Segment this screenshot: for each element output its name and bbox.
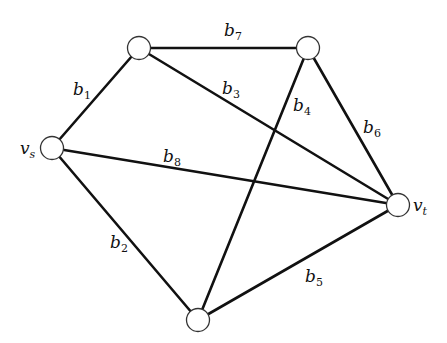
label-b5: b5 — [305, 266, 323, 289]
edge-b6 — [308, 48, 398, 205]
label-b4: b4 — [293, 95, 311, 118]
graph-diagram: vs vt b1 b2 b3 b4 b5 b6 b7 b8 — [0, 0, 447, 343]
label-b6: b6 — [363, 117, 381, 140]
node-vs — [41, 137, 64, 160]
label-b1: b1 — [73, 79, 91, 102]
edge-b2 — [52, 148, 198, 320]
edge-b5 — [198, 205, 398, 320]
node-bottom — [187, 309, 210, 332]
node-top-right — [297, 37, 320, 60]
label-vs: vs — [20, 138, 36, 161]
edge-b1 — [52, 48, 139, 148]
label-b8: b8 — [163, 146, 181, 169]
edge-b4 — [198, 48, 308, 320]
label-b3: b3 — [222, 78, 240, 101]
edge-b3 — [139, 48, 398, 205]
edge-b8 — [52, 148, 398, 205]
node-vt — [387, 194, 410, 217]
label-vt: vt — [413, 195, 428, 218]
label-b7: b7 — [224, 20, 242, 43]
node-top-left — [128, 37, 151, 60]
